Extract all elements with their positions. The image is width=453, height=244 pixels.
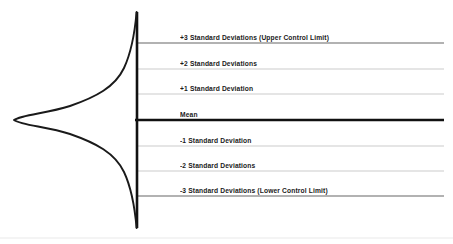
control-chart-figure: +3 Standard Deviations (Upper Control Li… [0,0,453,244]
bottom-edge-artifact [0,237,453,239]
label-minus-2-sigma: -2 Standard Deviations [180,162,255,169]
label-plus-2-sigma: +2 Standard Deviations [180,60,257,67]
label-minus-1-sigma: -1 Standard Deviation [180,137,252,144]
label-plus-1-sigma: +1 Standard Deviation [180,85,253,92]
label-plus-3-sigma: +3 Standard Deviations (Upper Control Li… [180,34,329,41]
label-minus-3-sigma: -3 Standard Deviations (Lower Control Li… [180,187,328,194]
normal-distribution-curve [14,12,137,228]
label-mean: Mean [180,111,198,118]
